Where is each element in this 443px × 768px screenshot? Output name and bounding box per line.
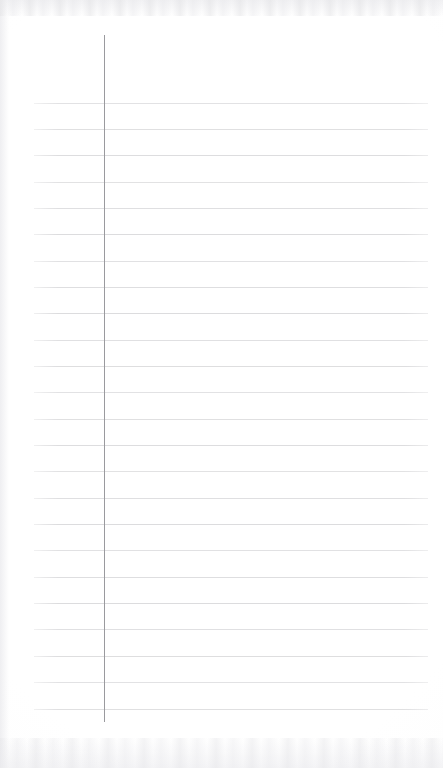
scan-left-edge-shadow [0, 0, 9, 768]
scan-noise-band-bottom [0, 738, 443, 768]
scan-noise-band-top [0, 0, 443, 16]
rule-line [34, 366, 428, 367]
rule-line [34, 498, 428, 499]
rule-line [34, 287, 428, 288]
rule-line [34, 155, 428, 156]
rule-line [34, 524, 428, 525]
rule-line [34, 471, 428, 472]
rule-line [34, 577, 428, 578]
rule-line [34, 445, 428, 446]
paper-background [0, 0, 443, 768]
rule-line [34, 182, 428, 183]
rule-line [34, 261, 428, 262]
rule-line [34, 340, 428, 341]
rule-line [34, 208, 428, 209]
rule-line [34, 419, 428, 420]
rule-line [34, 392, 428, 393]
rule-line [34, 234, 428, 235]
rule-line [34, 603, 428, 604]
rule-line [34, 656, 428, 657]
rule-line [34, 709, 428, 710]
rule-line [34, 682, 428, 683]
rule-line [34, 313, 428, 314]
rule-line [34, 129, 428, 130]
rule-line [34, 629, 428, 630]
scanned-page [0, 0, 443, 768]
vertical-margin-rule [104, 35, 105, 722]
rule-line [34, 103, 428, 104]
rule-line [34, 550, 428, 551]
